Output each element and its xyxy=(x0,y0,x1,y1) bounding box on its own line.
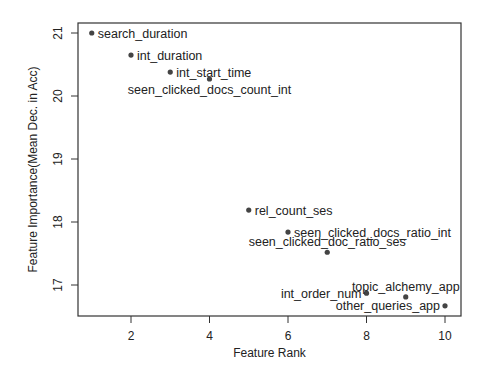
data-point xyxy=(285,229,290,234)
x-axis: 246810 xyxy=(128,316,452,343)
data-point xyxy=(168,69,173,74)
y-axis-title: Feature Importance(Mean Dec. in Acc) xyxy=(26,66,40,272)
plot-frame xyxy=(78,23,461,316)
data-points: search_durationint_durationint_start_tim… xyxy=(89,27,459,314)
x-tick-label: 2 xyxy=(128,329,135,343)
point-label: int_start_time xyxy=(176,66,251,80)
x-tick-label: 6 xyxy=(285,329,292,343)
y-tick-label: 19 xyxy=(51,152,65,166)
data-point xyxy=(325,250,330,255)
data-point xyxy=(442,303,447,308)
x-tick-label: 8 xyxy=(363,329,370,343)
y-tick-label: 17 xyxy=(51,278,65,292)
data-point xyxy=(89,30,94,35)
point-label: topic_alchemy_app xyxy=(352,280,460,294)
point-label: other_queries_app xyxy=(336,299,440,313)
x-tick-label: 10 xyxy=(438,329,452,343)
data-point xyxy=(128,52,133,57)
point-label: search_duration xyxy=(98,27,188,41)
point-label: seen_clicked_doc_ratio_ses xyxy=(249,235,406,249)
point-label: seen_clicked_docs_count_int xyxy=(128,83,292,97)
scatter-chart: 246810 1718192021 search_durationint_dur… xyxy=(0,0,483,383)
y-tick-label: 20 xyxy=(51,89,65,103)
x-tick-label: 4 xyxy=(206,329,213,343)
data-point xyxy=(207,76,212,81)
x-axis-title: Feature Rank xyxy=(233,346,307,360)
point-label: int_duration xyxy=(137,49,202,63)
y-tick-label: 18 xyxy=(51,215,65,229)
y-axis: 1718192021 xyxy=(51,26,78,292)
y-tick-label: 21 xyxy=(51,26,65,40)
data-point xyxy=(246,207,251,212)
point-label: rel_count_ses xyxy=(255,204,333,218)
